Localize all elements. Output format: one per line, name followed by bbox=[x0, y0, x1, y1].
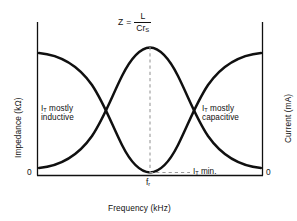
formula-equals: = bbox=[126, 18, 131, 28]
resonance-frequency-tick-label: fr bbox=[146, 178, 150, 188]
right-region-label-line1: IT mostly bbox=[202, 104, 239, 113]
right-region-label-line2: capacitive bbox=[202, 113, 239, 122]
right-axis-title: Current (mA) bbox=[284, 94, 293, 143]
right-region-label: IT mostly capacitive bbox=[202, 104, 239, 123]
formula-fraction: L CrS bbox=[134, 12, 151, 34]
resonance-curve-figure: Z = L CrS Impedance (kΩ) Current (mA) Fr… bbox=[0, 0, 297, 221]
x-axis-title: Frequency (kHz) bbox=[108, 204, 171, 213]
right-axis-zero-label: 0 bbox=[266, 168, 271, 177]
impedance-formula: Z = L CrS bbox=[118, 12, 151, 34]
left-region-label-line1: IT mostly bbox=[41, 104, 74, 113]
left-axis-zero-label: 0 bbox=[27, 168, 32, 177]
formula-numerator: L bbox=[137, 12, 148, 21]
current-min-label: IT min. bbox=[193, 167, 216, 176]
left-region-label-line2: inductive bbox=[41, 113, 74, 122]
formula-lhs: Z bbox=[118, 18, 123, 28]
formula-denominator: CrS bbox=[134, 24, 151, 34]
left-region-label: IT mostly inductive bbox=[41, 104, 74, 123]
left-axis-title: Impedance (kΩ) bbox=[14, 97, 23, 158]
